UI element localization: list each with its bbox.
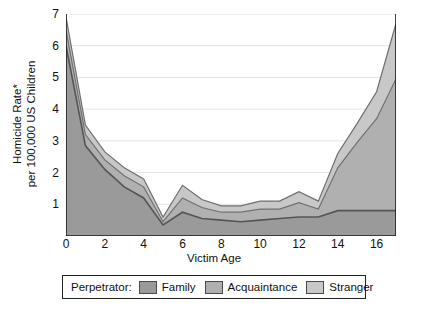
legend-swatch-acquaintance bbox=[205, 281, 223, 294]
x-tick-label: 16 bbox=[370, 237, 383, 251]
legend-swatch-family bbox=[139, 281, 157, 294]
stacked-area-series bbox=[66, 17, 396, 236]
x-tick-label: 8 bbox=[218, 237, 225, 251]
y-tick-label: 4 bbox=[39, 102, 59, 116]
y-tick-label: 5 bbox=[39, 70, 59, 84]
legend: Perpetrator: FamilyAcquaintanceStranger bbox=[62, 275, 366, 299]
y-axis-title-line1: Homicide Rate* bbox=[11, 61, 25, 188]
x-tick-label: 0 bbox=[63, 237, 70, 251]
y-tick-label: 7 bbox=[39, 7, 59, 21]
x-tick-label: 10 bbox=[253, 237, 266, 251]
legend-swatch-stranger bbox=[306, 281, 324, 294]
legend-label: Stranger bbox=[329, 281, 373, 293]
legend-label: Acquaintance bbox=[228, 281, 298, 293]
chart-figure: Homicide Rate* per 100,000 US Children 1… bbox=[0, 0, 428, 312]
x-tick-label: 12 bbox=[292, 237, 305, 251]
legend-item-family[interactable]: Family bbox=[139, 281, 196, 294]
y-tick-label: 1 bbox=[39, 197, 59, 211]
x-tick-label: 14 bbox=[331, 237, 344, 251]
x-tick-label: 4 bbox=[140, 237, 147, 251]
x-tick-label: 2 bbox=[101, 237, 108, 251]
y-tick-label: 2 bbox=[39, 166, 59, 180]
legend-items: FamilyAcquaintanceStranger bbox=[139, 281, 383, 294]
legend-item-acquaintance[interactable]: Acquaintance bbox=[205, 281, 298, 294]
legend-title: Perpetrator: bbox=[71, 281, 132, 293]
plot-area bbox=[66, 14, 396, 236]
y-axis-title: Homicide Rate* per 100,000 US Children bbox=[4, 24, 44, 224]
x-tick-label: 6 bbox=[179, 237, 186, 251]
legend-item-stranger[interactable]: Stranger bbox=[306, 281, 373, 294]
y-axis-title-line2: per 100,000 US Children bbox=[24, 61, 38, 188]
y-tick-label: 6 bbox=[39, 39, 59, 53]
legend-label: Family bbox=[162, 281, 196, 293]
x-axis-title: Victim Age bbox=[0, 252, 428, 264]
y-tick-label: 3 bbox=[39, 134, 59, 148]
